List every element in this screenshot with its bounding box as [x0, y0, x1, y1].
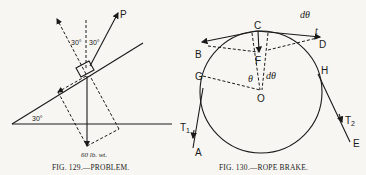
parallelogram-side-left — [58, 92, 87, 146]
label-b: B — [195, 49, 202, 60]
label-dtheta-center: dθ — [266, 70, 276, 81]
label-h: H — [321, 65, 328, 76]
caption-fig-129: FIG. 129.—PROBLEM. — [52, 163, 129, 172]
label-g: G — [195, 71, 203, 82]
tension-arrow-d — [257, 31, 320, 37]
label-d: D — [319, 39, 326, 50]
label-dtheta-top: dθ — [300, 9, 310, 20]
parallelogram-side-right — [90, 76, 119, 129]
component-along-plane-dashed — [58, 76, 86, 92]
tension-t1-arrow — [193, 130, 194, 138]
caption-fig-130: FIG. 130.—ROPE BRAKE. — [219, 163, 308, 172]
label-e: E — [353, 138, 360, 149]
label-p: P — [120, 9, 127, 20]
radius-dashed-right — [262, 33, 268, 90]
rope-tail-e — [318, 74, 350, 142]
brake-drum-circle — [200, 31, 322, 153]
label-t1: T1 — [180, 122, 190, 134]
label-t2: T2 — [345, 115, 355, 127]
figure-129-problem: P 30° 30° 30° 60 lb. wt. FIG. 129.—PROBL… — [12, 9, 172, 172]
label-t-small: t — [315, 25, 318, 36]
label-f: F — [255, 55, 261, 66]
diagram-canvas: P 30° 30° 30° 60 lb. wt. FIG. 129.—PROBL… — [0, 0, 366, 175]
parallelogram-side-bottom — [87, 129, 119, 146]
normal-force-arrow-f — [258, 31, 259, 52]
label-angle-left: 30° — [71, 39, 82, 46]
label-a: A — [195, 147, 202, 158]
normal-reaction-dashed-arrow — [57, 19, 86, 74]
label-c: C — [254, 20, 261, 31]
figure-130-rope-brake: C B D F G H O A E T1 T2 θ dθ dθ t FIG. 1… — [180, 9, 360, 172]
label-theta: θ — [248, 73, 253, 84]
rope-tail-a — [193, 88, 203, 148]
label-weight: 60 lb. wt. — [81, 151, 107, 159]
label-angle-right: 30° — [89, 39, 100, 46]
label-o: O — [257, 93, 265, 104]
incline-plane — [12, 43, 143, 124]
label-incline-angle: 30° — [32, 115, 43, 122]
